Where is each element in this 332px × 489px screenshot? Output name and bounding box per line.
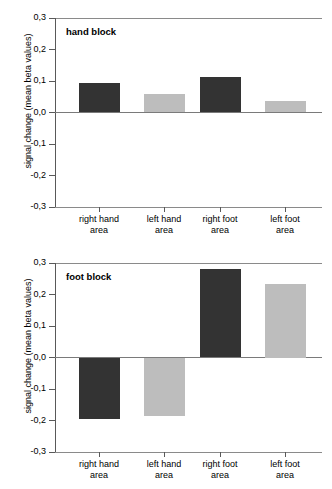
figure-two-bar-charts: signal change (mean beta values) 0,3 0,2… xyxy=(0,0,332,489)
y-tick-mark xyxy=(49,207,55,208)
y-tick-label: 0,2 xyxy=(8,290,46,299)
x-tick-label-left-foot-area: left foot area xyxy=(250,214,320,236)
y-tick-label: 0,2 xyxy=(8,45,46,54)
y-tick-label: 0,0 xyxy=(8,108,46,117)
chart-panel-hand-block: signal change (mean beta values) 0,3 0,2… xyxy=(0,0,332,244)
y-tick-label: -0,3 xyxy=(8,447,46,456)
y-tick-mark xyxy=(49,389,55,390)
x-tick-label-right-foot-area: right foot area xyxy=(185,214,255,236)
bar-left-hand-area xyxy=(144,358,185,416)
y-tick-mark xyxy=(49,420,55,421)
plot-bottom-axis xyxy=(55,207,322,208)
y-tick-label: -0,1 xyxy=(8,139,46,148)
y-tick-mark xyxy=(49,144,55,145)
x-tick-label-line2: area xyxy=(64,225,134,236)
x-tick-label-right-foot-area: right foot area xyxy=(185,459,255,481)
y-tick-mark xyxy=(49,175,55,176)
bar-left-hand-area xyxy=(144,94,185,113)
panel-caption-hand-block: hand block xyxy=(66,26,116,37)
bar-right-foot-area xyxy=(200,77,241,113)
x-tick-label-right-hand-area: right hand area xyxy=(64,214,134,236)
bar-left-foot-area xyxy=(265,101,306,112)
bar-left-foot-area xyxy=(265,284,306,358)
y-tick-label: 0,3 xyxy=(8,258,46,267)
plot-bottom-axis xyxy=(55,452,322,453)
y-tick-mark xyxy=(49,18,55,19)
x-tick-label-line2: area xyxy=(185,470,255,481)
x-tick-label-line2: area xyxy=(64,470,134,481)
x-tick-label-line2: area xyxy=(185,225,255,236)
y-tick-mark xyxy=(49,49,55,50)
x-tick-label-right-hand-area: right hand area xyxy=(64,459,134,481)
y-tick-label: 0,1 xyxy=(8,321,46,330)
y-tick-label: -0,2 xyxy=(8,171,46,180)
bar-right-hand-area xyxy=(79,83,120,113)
y-tick-label: 0,1 xyxy=(8,76,46,85)
y-tick-mark xyxy=(49,263,55,264)
y-tick-mark xyxy=(49,294,55,295)
chart-panel-foot-block: signal change (mean beta values) 0,3 0,2… xyxy=(0,245,332,489)
x-tick-mark xyxy=(99,452,100,457)
x-tick-mark xyxy=(164,452,165,457)
x-tick-label-line1: right hand xyxy=(64,214,134,225)
x-tick-mark xyxy=(285,452,286,457)
y-tick-mark xyxy=(49,452,55,453)
x-tick-mark xyxy=(285,207,286,212)
x-tick-mark xyxy=(220,207,221,212)
x-tick-label-line2: area xyxy=(250,225,320,236)
x-tick-label-line1: left foot xyxy=(250,214,320,225)
y-tick-mark xyxy=(49,81,55,82)
x-tick-label-line1: right foot xyxy=(185,459,255,470)
bar-right-hand-area xyxy=(79,358,120,419)
y-tick-label: -0,3 xyxy=(8,202,46,211)
bar-right-foot-area xyxy=(200,269,241,358)
y-tick-label: 0,0 xyxy=(8,353,46,362)
panel-caption-foot-block: foot block xyxy=(66,271,111,282)
y-tick-mark xyxy=(49,357,55,358)
x-tick-mark xyxy=(220,452,221,457)
x-tick-label-line1: left foot xyxy=(250,459,320,470)
y-tick-mark xyxy=(49,112,55,113)
x-tick-label-line1: right foot xyxy=(185,214,255,225)
x-tick-label-line2: area xyxy=(250,470,320,481)
x-tick-mark xyxy=(164,207,165,212)
y-tick-mark xyxy=(49,326,55,327)
y-tick-label: -0,1 xyxy=(8,384,46,393)
x-tick-label-line1: right hand xyxy=(64,459,134,470)
y-tick-label: 0,3 xyxy=(8,13,46,22)
x-tick-mark xyxy=(99,207,100,212)
y-tick-label: -0,2 xyxy=(8,416,46,425)
x-tick-label-left-foot-area: left foot area xyxy=(250,459,320,481)
